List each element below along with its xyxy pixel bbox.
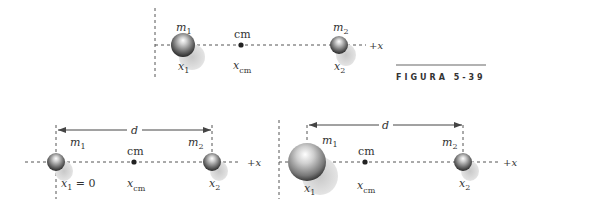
mass1-sphere xyxy=(171,33,195,57)
distance-label: d xyxy=(382,119,389,132)
cm-point xyxy=(131,159,136,164)
caption-text: FIGURA 5-39 xyxy=(396,73,486,82)
figure-caption: FIGURA 5-39 xyxy=(396,65,486,82)
cm-position-label: xcm xyxy=(233,59,252,75)
mass2-sphere xyxy=(203,153,221,171)
cm-label: cm xyxy=(234,28,251,41)
cm-label: cm xyxy=(358,145,375,158)
mass2-label: m2 xyxy=(188,136,204,151)
cm-point xyxy=(362,159,367,164)
mass1-label: m1 xyxy=(176,21,192,36)
panel-bottom-right: +x d m1 x1 cm xcm m2 x2 xyxy=(279,119,517,199)
mass1-position-label: x1 = 0 xyxy=(61,177,96,192)
distance-label: d xyxy=(131,124,138,137)
mass1-label: m1 xyxy=(70,136,86,151)
mass2-sphere xyxy=(330,36,348,54)
cm-point xyxy=(238,42,243,47)
mass1-sphere xyxy=(288,143,326,181)
cm-label: cm xyxy=(127,145,144,158)
panel-bottom-left: +x d m1 x1 = 0 cm xcm m2 x2 xyxy=(25,124,261,199)
mass2-label: m2 xyxy=(442,136,458,151)
axis-label: +x xyxy=(369,40,383,51)
center-of-mass-diagram: +x m1 x1 cm xcm m2 x2 FIGURA 5-39 +x d m… xyxy=(0,0,604,199)
mass1-label: m1 xyxy=(322,134,338,149)
axis-label: +x xyxy=(503,157,517,168)
cm-position-label: xcm xyxy=(357,179,376,195)
axis-label: +x xyxy=(247,157,261,168)
cm-position-label: xcm xyxy=(127,177,146,193)
mass2-label: m2 xyxy=(333,21,349,36)
panel-top: +x m1 x1 cm xcm m2 x2 xyxy=(155,8,383,78)
mass1-sphere xyxy=(47,153,65,171)
mass2-sphere xyxy=(454,153,472,171)
